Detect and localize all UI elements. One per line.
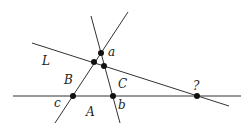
label-A: A (86, 106, 95, 118)
diagram-svg (0, 0, 252, 132)
label-L: L (42, 55, 50, 67)
point-q (194, 93, 200, 99)
point-a (98, 50, 104, 56)
label-question: ? (193, 80, 199, 92)
label-c: c (54, 97, 61, 109)
label-a: a (108, 46, 115, 58)
label-B: B (64, 74, 73, 86)
label-b: b (118, 99, 126, 111)
diagram-canvas: a L B C c b A ? (0, 0, 252, 132)
point-b (110, 93, 116, 99)
point-left-mid (91, 59, 97, 65)
label-C: C (118, 78, 127, 90)
point-c (70, 93, 76, 99)
point-right-mid (101, 63, 107, 69)
